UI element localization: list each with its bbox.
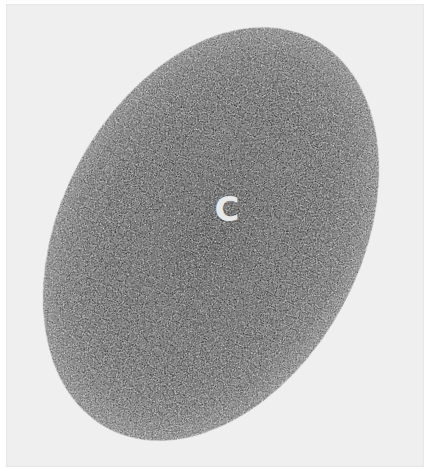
figure-panel: C <box>6 4 424 467</box>
speckled-ellipse <box>0 0 430 471</box>
panel-label: C <box>212 189 242 229</box>
